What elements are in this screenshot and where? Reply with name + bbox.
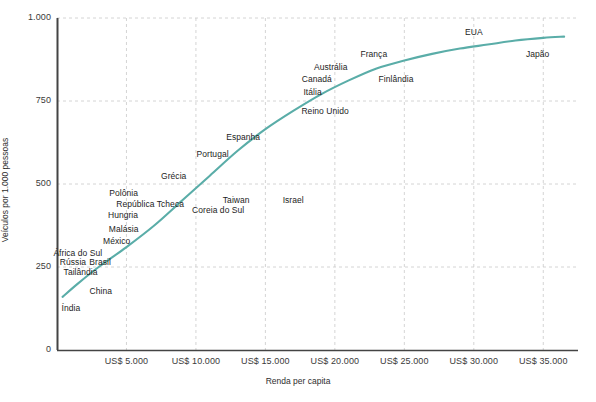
country-label: Tailândia <box>64 267 98 277</box>
y-tick-label: 750 <box>0 95 51 105</box>
country-label: República Tcheca <box>116 199 184 209</box>
country-label: Reino Unido <box>301 106 348 116</box>
country-label: EUA <box>465 27 483 37</box>
country-label: Índia <box>62 303 81 313</box>
country-label: Grécia <box>161 171 186 181</box>
x-tick-label: US$ 5.000 <box>88 356 164 366</box>
x-axis-title: Renda per capita <box>238 376 358 386</box>
country-label: Japão <box>526 49 549 59</box>
country-label: Polônia <box>109 188 138 198</box>
x-tick-label: US$ 30.000 <box>436 356 512 366</box>
country-label: Brasil <box>89 257 111 267</box>
country-label: Canadá <box>302 74 332 84</box>
x-tick-label: US$ 25.000 <box>366 356 442 366</box>
country-label: Espanha <box>226 132 260 142</box>
country-label: Portugal <box>197 149 229 159</box>
y-tick-label: 0 <box>0 344 51 354</box>
country-label: Austrália <box>314 62 348 72</box>
y-tick-label: 250 <box>0 261 51 271</box>
y-tick-label: 1.000 <box>0 12 51 22</box>
country-label: Malásia <box>109 224 139 234</box>
x-tick-label: US$ 15.000 <box>227 356 303 366</box>
x-tick-label: US$ 35.000 <box>505 356 581 366</box>
country-label: Taiwan <box>223 195 250 205</box>
country-label: Coreia do Sul <box>192 205 244 215</box>
country-label: Rússia <box>60 257 86 267</box>
country-label: China <box>90 286 112 296</box>
x-tick-label: US$ 20.000 <box>297 356 373 366</box>
country-label: França <box>360 49 387 59</box>
country-label: Hungria <box>108 210 138 220</box>
y-axis-title: Veículos por 1.000 pessoas <box>0 130 10 250</box>
country-label: Itália <box>303 87 321 97</box>
chart-container: 02505007501.000 US$ 5.000US$ 10.000US$ 1… <box>0 0 596 402</box>
country-label: Israel <box>283 195 304 205</box>
country-label: Finlândia <box>379 74 414 84</box>
country-label: México <box>103 236 130 246</box>
x-tick-label: US$ 10.000 <box>158 356 234 366</box>
